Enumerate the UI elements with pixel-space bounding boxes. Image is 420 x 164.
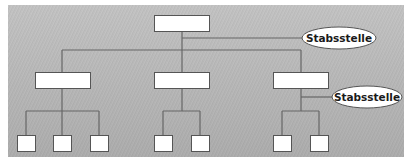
staff-position-1: Stabsstelle	[302, 27, 376, 49]
staff-position-2: Stabsstelle	[332, 86, 402, 108]
top-box	[155, 16, 210, 32]
staff-position-label: Stabsstelle	[334, 91, 400, 103]
level2-box-3	[274, 73, 329, 89]
org-chart: Stabsstelle Stabsstelle	[0, 0, 420, 164]
level3-box	[18, 136, 36, 152]
staff-position-label: Stabsstelle	[306, 32, 372, 44]
level2-box-2	[155, 73, 210, 89]
level3-box	[192, 136, 210, 152]
level3-box	[91, 136, 109, 152]
level3-box	[155, 136, 173, 152]
level2-box-1	[36, 73, 91, 89]
level3-box	[54, 136, 72, 152]
level3-box	[311, 136, 329, 152]
level3-box	[274, 136, 292, 152]
